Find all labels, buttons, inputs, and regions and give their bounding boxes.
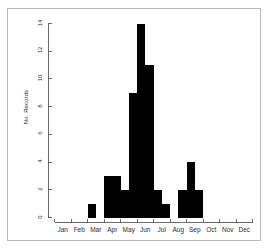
histogram-bar xyxy=(178,190,186,218)
y-tick-label: 2 xyxy=(37,182,43,196)
x-tick-label: Dec xyxy=(232,226,256,233)
x-axis xyxy=(55,219,253,223)
y-tick-label: 10 xyxy=(37,71,43,85)
histogram-bar xyxy=(121,190,129,218)
y-tick-label: 12 xyxy=(37,43,43,57)
bars-group xyxy=(88,24,204,218)
y-tick-label: 0 xyxy=(37,210,43,224)
histogram-bar xyxy=(154,190,162,218)
y-tick-label: 14 xyxy=(37,16,43,30)
y-tick-label: 8 xyxy=(37,99,43,113)
histogram-bar xyxy=(129,93,137,218)
y-axis xyxy=(48,24,52,218)
histogram-bar xyxy=(162,204,170,218)
y-tick-label: 4 xyxy=(37,154,43,168)
histogram-bar xyxy=(104,176,112,218)
histogram-bar xyxy=(195,190,203,218)
histogram-bar xyxy=(137,24,145,218)
histogram-figure: No. Records 02468101214 JanFebMarAprMayJ… xyxy=(0,0,270,250)
y-tick-label: 6 xyxy=(37,126,43,140)
y-axis-title: No. Records xyxy=(23,77,29,137)
plot-area: No. Records 02468101214 JanFebMarAprMayJ… xyxy=(0,0,270,250)
histogram-bar xyxy=(145,65,153,217)
histogram-bar xyxy=(88,204,96,218)
histogram-bar xyxy=(187,162,195,217)
histogram-bar xyxy=(112,176,120,218)
